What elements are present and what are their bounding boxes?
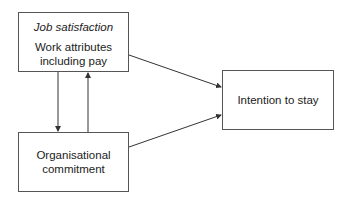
node-organisational-commitment: Organisational commitment	[18, 132, 129, 192]
node-job-satisfaction: Job satisfaction Work attributes includi…	[18, 12, 129, 72]
arrow-js-to-its	[129, 55, 221, 87]
node-title: Job satisfaction	[34, 20, 113, 34]
arrow-oc-to-its	[129, 115, 221, 147]
node-label-line: including pay	[40, 54, 107, 68]
node-label-line: commitment	[42, 162, 105, 176]
node-label-line: Work attributes	[35, 40, 112, 54]
node-label-line: Organisational	[36, 148, 110, 162]
node-label-line: Intention to stay	[237, 93, 318, 107]
node-intention-to-stay: Intention to stay	[222, 70, 334, 130]
